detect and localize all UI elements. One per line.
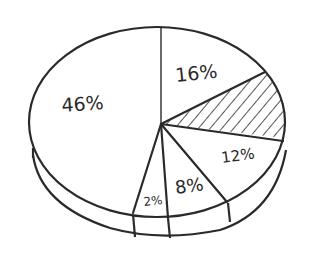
- label-2: 2%: [143, 193, 163, 209]
- label-16: 16%: [174, 60, 218, 86]
- pie-chart: 46% 16% 12% 8% 2%: [0, 0, 310, 262]
- pie-top: [29, 27, 285, 218]
- label-8: 8%: [174, 173, 205, 198]
- label-46: 46%: [61, 91, 105, 116]
